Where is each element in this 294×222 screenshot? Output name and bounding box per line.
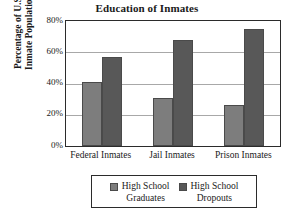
- legend-label-dropouts-line-1: High School: [191, 181, 239, 191]
- bar-chart-figure: Education of Inmates Percentage of U.S. …: [0, 0, 294, 222]
- y-tick-label: 20%: [47, 109, 64, 118]
- legend-label-dropouts-line-2: Dropouts: [197, 193, 232, 203]
- bar-prison-dropouts[interactable]: [244, 29, 264, 146]
- bar-jail-dropouts[interactable]: [173, 40, 193, 146]
- y-axis-tick-labels: 0% 20% 40% 60% 80%: [36, 20, 63, 147]
- plot-area: [65, 20, 281, 147]
- bar-jail-graduates[interactable]: [153, 98, 173, 146]
- legend-entry-dropouts[interactable]: High School Dropouts: [179, 180, 239, 204]
- x-axis-tick-labels: Federal Inmates Jail Inmates Prison Inma…: [65, 149, 281, 163]
- x-tick-label-jail-inmates: Jail Inmates: [149, 149, 195, 161]
- legend-label-graduates-line-2: Graduates: [126, 193, 165, 203]
- bar-federal-graduates[interactable]: [82, 82, 102, 146]
- y-tick-label: 40%: [47, 78, 64, 87]
- x-tick-label-prison-inmates: Prison Inmates: [215, 149, 272, 161]
- y-axis-title: Percentage of U.S. Inmate Population: [10, 0, 38, 102]
- bar-group-prison-inmates: [224, 21, 264, 146]
- y-tick-label: 60%: [47, 47, 64, 56]
- y-tick-label: 0%: [51, 141, 63, 150]
- chart-legend: High School Graduates High School Dropou…: [91, 175, 257, 208]
- legend-swatch-icon-graduates: [110, 183, 118, 191]
- bar-group-federal-inmates: [82, 21, 122, 146]
- bar-group-jail-inmates: [153, 21, 193, 146]
- chart-title: Education of Inmates: [0, 2, 294, 14]
- y-axis-title-line-2: Inmate Population: [24, 0, 36, 70]
- legend-entry-graduates[interactable]: High School Graduates: [110, 180, 170, 204]
- bar-prison-graduates[interactable]: [224, 105, 244, 146]
- y-axis-title-line-1: Percentage of U.S.: [13, 0, 25, 69]
- legend-label-graduates-line-1: High School: [122, 181, 170, 191]
- bar-federal-dropouts[interactable]: [102, 57, 122, 146]
- legend-label-graduates: High School Graduates: [122, 180, 170, 204]
- legend-swatch-icon-dropouts: [179, 183, 187, 191]
- y-tick-label: 80%: [47, 16, 64, 25]
- legend-label-dropouts: High School Dropouts: [191, 180, 239, 204]
- bar-groups: [66, 21, 280, 146]
- x-tick-label-federal-inmates: Federal Inmates: [70, 149, 131, 161]
